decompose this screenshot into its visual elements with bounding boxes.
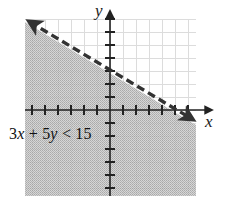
plus-sign: + [29, 125, 38, 142]
coefficient-x: 3 [9, 125, 17, 142]
relation-sign: < [62, 125, 71, 142]
constant-term: 15 [75, 125, 91, 142]
variable-y: y [50, 125, 57, 142]
variable-x: x [17, 125, 24, 142]
inequality-graph-figure [0, 0, 228, 209]
inequality-annotation: 3x + 5y < 15 [9, 126, 92, 142]
y-axis-label: y [95, 2, 103, 19]
x-axis-label: x [205, 113, 213, 130]
